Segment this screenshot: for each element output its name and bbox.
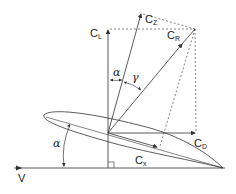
alpha-arc-left [63, 125, 70, 166]
cx-vector [108, 133, 157, 147]
v-label: V [18, 173, 25, 184]
cl-label: CL [90, 28, 102, 40]
cd-label: CD [194, 138, 207, 150]
right-angle-icon [108, 162, 114, 168]
gamma-label: γ [132, 72, 139, 83]
alpha-label-left: α [53, 138, 60, 149]
cr-label: CR [167, 30, 180, 42]
force-diagram [0, 0, 236, 194]
alpha-label-top: α [113, 67, 120, 78]
cr-vector [108, 44, 182, 133]
cz-label: CZ [145, 14, 157, 26]
velocity-arrow-icon [16, 166, 22, 171]
cx-label: Cx [135, 155, 146, 167]
